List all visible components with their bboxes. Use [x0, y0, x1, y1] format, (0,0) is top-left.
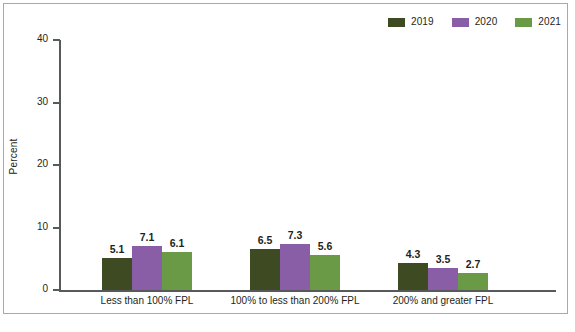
bar-2021-group-3[interactable]	[458, 273, 488, 290]
y-axis-tick-label-text: 40	[18, 34, 48, 44]
figure: 2019 2020 2021 010203040 Percent 5.17.16…	[0, 0, 575, 332]
y-axis-tick-label-text: 30	[18, 97, 48, 107]
y-axis-tick-label-text: 10	[18, 222, 48, 232]
y-axis-tick-label-text: 0	[18, 284, 48, 294]
bar-2019-group-3[interactable]	[398, 263, 428, 290]
bar-value-label-2021-group-3: 2.7	[453, 259, 493, 270]
footer-caption-cutoff	[4, 323, 564, 332]
bar-2019-group-1[interactable]	[102, 258, 132, 290]
bar-2021-group-1[interactable]	[162, 252, 192, 290]
bar-2020-group-1[interactable]	[132, 246, 162, 290]
bar-value-label-2021-group-2: 5.6	[305, 241, 345, 252]
bar-value-label-2019-group-1: 5.1	[97, 244, 137, 255]
y-axis-tick-10	[53, 227, 60, 229]
y-axis-tick-label-20: 20	[18, 159, 48, 169]
y-axis-tick-40	[53, 39, 60, 41]
bar-value-label-2020-group-2: 7.3	[275, 230, 315, 241]
y-axis-tick-label-10: 10	[18, 222, 48, 232]
y-axis-tick-label-text: 20	[18, 159, 48, 169]
y-axis-tick-label-40: 40	[18, 34, 48, 44]
y-axis-line	[59, 40, 61, 292]
bar-2020-group-3[interactable]	[428, 268, 458, 290]
y-axis-tick-0	[53, 289, 60, 291]
y-axis-tick-20	[53, 164, 60, 166]
x-axis-line	[59, 290, 556, 292]
plot-area: 010203040 Percent 5.17.16.16.57.35.64.33…	[0, 0, 575, 332]
bar-2021-group-2[interactable]	[310, 255, 340, 290]
bar-2019-group-2[interactable]	[250, 249, 280, 290]
y-axis-tick-30	[53, 102, 60, 104]
y-axis-title: Percent	[8, 127, 19, 187]
y-axis-tick-label-30: 30	[18, 97, 48, 107]
y-axis-tick-label-0: 0	[18, 284, 48, 294]
x-axis-category-label-3: 200% and greater FPL	[353, 296, 533, 306]
bar-value-label-2021-group-1: 6.1	[157, 238, 197, 249]
